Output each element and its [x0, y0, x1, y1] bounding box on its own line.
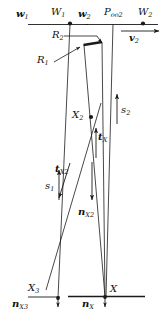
ray-W1-to-X3 [58, 24, 70, 298]
point-W2 [141, 21, 145, 25]
label-X: X [110, 284, 117, 295]
label-X2: X2 [72, 110, 83, 121]
label-nX: nX [82, 299, 94, 310]
geometry-figure: w1 W1 w2 Poo2 W2 v2 R2 R1 X2 s2 s1 tX tX… [0, 0, 162, 320]
ray-Poo2-to-X [106, 24, 113, 297]
label-nX2: nX2 [78, 207, 94, 218]
label-R1: R1 [37, 55, 49, 66]
label-W2: W2 [138, 7, 152, 18]
label-tX2: tX2 [55, 164, 68, 175]
label-s2: s2 [121, 105, 130, 116]
label-tX: tX [98, 132, 107, 143]
figure-canvas [0, 0, 162, 320]
label-w2: w2 [78, 9, 91, 20]
label-w1: w1 [16, 9, 29, 20]
label-R2: R2 [52, 30, 64, 41]
label-X3: X3 [28, 283, 39, 294]
wedge-right-edge [102, 42, 105, 297]
point-X2 [89, 115, 93, 119]
label-nX3: nX3 [12, 299, 28, 310]
patch-top-edge [84, 42, 103, 45]
label-W1: W1 [51, 7, 65, 18]
label-s1: s1 [45, 181, 54, 192]
ray-through-X2 [46, 103, 101, 290]
label-v2: v2 [129, 33, 139, 44]
wedge-left-edge [84, 45, 105, 297]
label-Poo2: Poo2 [104, 7, 123, 18]
leader-R1 [54, 47, 80, 62]
